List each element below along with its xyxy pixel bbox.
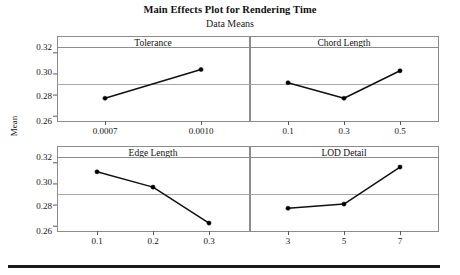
bottom-divider-rule: [8, 265, 440, 268]
plot-canvas: [0, 0, 460, 275]
main-effects-plot: Main Effects Plot for Rendering Time Dat…: [0, 0, 460, 275]
panel-frames: [53, 37, 439, 236]
